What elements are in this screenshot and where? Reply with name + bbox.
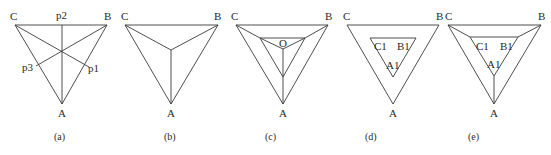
panel-e: C B A C1 B1 A1 (e) [445,10,545,143]
vertex-label-c: C [445,10,452,22]
vertex-label-c: C [10,10,17,22]
vertex-label-c: C [121,10,128,22]
point-label-p3: p3 [22,61,34,73]
panel-b: C B A (b) [121,10,221,143]
vertex-label-b: B [325,10,332,22]
inner-label-b1: B1 [500,40,513,52]
caption-a: (a) [54,131,65,143]
inner-label-c1: C1 [476,40,489,52]
vertex-label-a: A [279,107,287,119]
point-label-p2: p2 [56,9,67,21]
inner-label-c1: C1 [374,40,387,52]
vertex-label-a: A [389,107,397,119]
outer-triangle [125,25,218,104]
caption-c: (c) [265,131,276,143]
panel-a: C B A p2 p1 p3 (a) [10,9,111,143]
vertex-label-b: B [538,10,545,22]
inner-label-a1: A1 [386,59,399,71]
median-b [36,25,107,66]
vertex-label-b: B [436,10,443,22]
vertex-label-a: A [58,107,66,119]
vertex-label-a: A [490,107,498,119]
inner-label-a1: A1 [487,58,500,70]
caption-e: (e) [468,131,479,143]
caption-b: (b) [164,131,176,143]
figure-canvas: C B A p2 p1 p3 (a) C B A (b) C B A O (c) [0,0,551,155]
vertex-label-b: B [104,10,111,22]
center-label-o: O [279,37,287,49]
caption-d: (d) [365,131,377,143]
vertex-label-c: C [343,10,350,22]
vertex-label-c: C [231,10,238,22]
point-label-p1: p1 [88,62,99,74]
vertex-label-a: A [167,107,175,119]
panel-c: C B A O (c) [231,10,332,143]
inner-label-b1: B1 [397,40,410,52]
panel-d: C B A C1 B1 A1 (d) [343,10,443,143]
vertex-label-b: B [214,10,221,22]
